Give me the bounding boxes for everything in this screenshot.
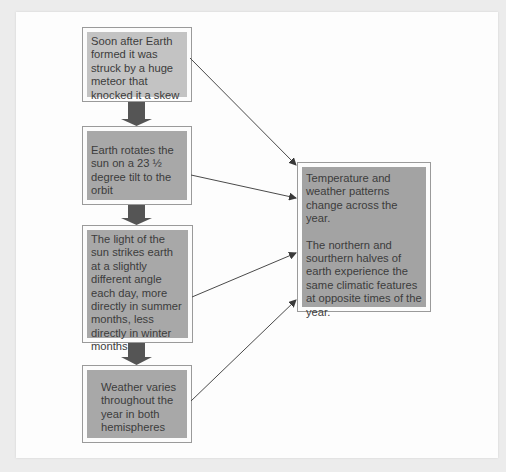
flow-box-weather-varies-text: Weather varies throughout the year in bo…	[87, 370, 187, 438]
flow-box-tilt-text: Earth rotates the sun on a 23 ½ degree t…	[87, 131, 187, 200]
result-box-fill: Temperature and weather patterns change …	[302, 167, 426, 307]
result-box: Temperature and weather patterns change …	[297, 162, 431, 312]
flow-box-meteor-text: Soon after Earth formed it was struck by…	[87, 32, 187, 97]
flow-box-tilt: Earth rotates the sun on a 23 ½ degree t…	[82, 126, 192, 205]
flow-box-meteor: Soon after Earth formed it was struck by…	[82, 27, 192, 102]
result-paragraph-1: Temperature and weather patterns change …	[306, 172, 422, 226]
flow-box-sunlight-angle-text: The light of the sun strikes earth at a …	[87, 230, 188, 338]
result-paragraph-2: The northern and sourthern halves of ear…	[306, 239, 422, 319]
flow-box-weather-varies: Weather varies throughout the year in bo…	[82, 365, 192, 443]
flow-box-sunlight-angle: The light of the sun strikes earth at a …	[82, 225, 193, 343]
